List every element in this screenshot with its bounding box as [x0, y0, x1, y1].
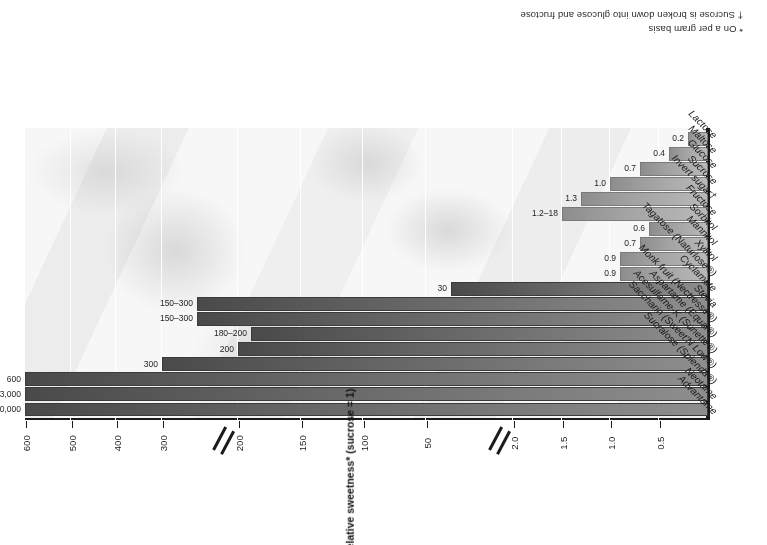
- axis-tick-label: 600: [22, 432, 32, 454]
- axis-tick: [118, 421, 119, 428]
- bar-value-label: 7000–13,000: [0, 390, 21, 399]
- axis-tick-label: 100: [361, 432, 371, 454]
- bar[interactable]: [25, 403, 708, 417]
- plot-area: 20,0007000–13,000600300200180–200150–300…: [25, 128, 710, 420]
- bar[interactable]: [251, 327, 708, 341]
- bar-row: 20,000: [25, 403, 708, 417]
- bar-value-label: 150–300: [159, 315, 192, 324]
- bar-value-label: 0.4: [653, 149, 665, 158]
- axis-tick: [239, 421, 240, 428]
- bar-row: 1.0: [25, 177, 708, 191]
- bar-series: 20,0007000–13,000600300200180–200150–300…: [25, 128, 708, 420]
- axis-tick: [163, 421, 164, 428]
- axis-tick-label: 500: [68, 432, 78, 454]
- axis-tick-label: 400: [114, 432, 124, 454]
- bar[interactable]: [611, 177, 709, 191]
- bar-row: 600: [25, 372, 708, 386]
- bar-row: 150–300: [25, 297, 708, 311]
- axis-tick-label: 50: [423, 432, 433, 454]
- bar-row: 0.7: [25, 162, 708, 176]
- bar-value-label: 0.7: [624, 164, 636, 173]
- bar[interactable]: [25, 388, 708, 402]
- bar-row: 150–300: [25, 312, 708, 326]
- bar[interactable]: [650, 222, 709, 236]
- axis-tick: [26, 421, 27, 428]
- sweetness-chart-figure: * On a per gram basis † Sucrose is broke…: [0, 0, 767, 545]
- footnotes: * On a per gram basis † Sucrose is broke…: [520, 8, 743, 36]
- bar[interactable]: [451, 282, 708, 296]
- footnote-per-gram: * On a per gram basis: [520, 22, 743, 36]
- axis-tick: [563, 421, 564, 428]
- bar-row: 30: [25, 282, 708, 296]
- bar[interactable]: [25, 372, 708, 386]
- bar-value-label: 1.3: [565, 195, 577, 204]
- axis-tick: [660, 421, 661, 428]
- bar-value-label: 30: [437, 285, 446, 294]
- bar[interactable]: [640, 162, 708, 176]
- bar-row: 180–200: [25, 327, 708, 341]
- bar[interactable]: [238, 342, 708, 356]
- bar[interactable]: [669, 147, 708, 161]
- bar-value-label: 0.6: [634, 225, 646, 234]
- bar-row: 1.3: [25, 192, 708, 206]
- bar-row: 7000–13,000: [25, 388, 708, 402]
- bar-value-label: 300: [144, 360, 158, 369]
- axis-tick: [364, 421, 365, 428]
- bar-row: 0.6: [25, 222, 708, 236]
- bar-row: 200: [25, 342, 708, 356]
- bar[interactable]: [562, 207, 708, 221]
- bar-value-label: 600: [7, 375, 21, 384]
- bar-row: 1.2–18: [25, 207, 708, 221]
- bar-row: 0.7: [25, 237, 708, 251]
- axis-tick-label: 2.0: [510, 432, 520, 454]
- axis-tick-label: 0.5: [657, 432, 667, 454]
- bar-value-label: 0.7: [624, 240, 636, 249]
- axis-tick-label: 1.5: [559, 432, 569, 454]
- axis-tick-label: 150: [298, 432, 308, 454]
- bar[interactable]: [689, 132, 709, 146]
- bar[interactable]: [197, 312, 708, 326]
- bar[interactable]: [640, 237, 708, 251]
- bar-row: 0.9: [25, 252, 708, 266]
- bar-row: 0.2: [25, 132, 708, 146]
- bar-value-label: 150–300: [159, 300, 192, 309]
- bar-value-label: 180–200: [213, 330, 246, 339]
- bar-row: 0.4: [25, 147, 708, 161]
- rotated-figure-wrapper: * On a per gram basis † Sucrose is broke…: [0, 0, 767, 545]
- axis-tick-label: 200: [235, 432, 245, 454]
- bar-value-label: 200: [220, 345, 234, 354]
- bar[interactable]: [197, 297, 708, 311]
- axis-tick: [427, 421, 428, 428]
- axis-tick: [612, 421, 613, 428]
- bar-row: 0.9: [25, 267, 708, 281]
- bar-value-label: 1.0: [595, 180, 607, 189]
- bar[interactable]: [620, 252, 708, 266]
- footnote-sucrose: † Sucrose is broken down into glucose an…: [520, 8, 743, 22]
- bar-row: 300: [25, 357, 708, 371]
- axis-tick: [514, 421, 515, 428]
- axis-tick-label: 300: [160, 432, 170, 454]
- bar[interactable]: [620, 267, 708, 281]
- axis-tick: [72, 421, 73, 428]
- bar[interactable]: [162, 357, 708, 371]
- bar-value-label: 20,000: [0, 405, 21, 414]
- bar-value-label: 0.9: [604, 255, 616, 264]
- bar[interactable]: [581, 192, 708, 206]
- axis-tick: [302, 421, 303, 428]
- bar-value-label: 1.2–18: [532, 210, 558, 219]
- bar-value-label: 0.9: [604, 270, 616, 279]
- bar-value-label: 0.2: [673, 134, 685, 143]
- axis-tick-label: 1.0: [608, 432, 618, 454]
